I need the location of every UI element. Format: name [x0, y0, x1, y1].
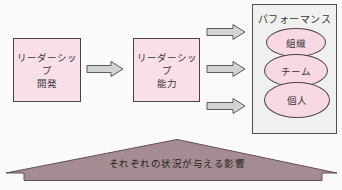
leadership-ability-label-line1: リーダーシップ: [134, 51, 199, 77]
arrow-ability-to-performance-bottom-icon: [207, 99, 245, 114]
leadership-ability-box: リーダーシップ 能力: [133, 38, 200, 102]
leadership-ability-label-line2: 能力: [157, 77, 177, 90]
arrow-development-to-ability-icon: [87, 62, 123, 77]
situation-banner-label: それぞれの状況が与える影響: [12, 156, 342, 170]
leadership-development-label-line2: 開発: [37, 77, 57, 90]
performance-level-organization: 組織: [266, 28, 326, 57]
leadership-development-label-line1: リーダーシップ: [14, 51, 80, 77]
performance-panel: パフォーマンス 組織 チーム 個人: [252, 4, 337, 134]
performance-level-individual: 個人: [264, 82, 330, 118]
leadership-development-box: リーダーシップ 開発: [13, 38, 81, 102]
leadership-performance-diagram: リーダーシップ 開発 リーダーシップ 能力 パフォーマンス 組織 チーム 個人 …: [0, 0, 342, 190]
performance-panel-title: パフォーマンス: [253, 11, 336, 26]
team-label: チーム: [281, 64, 311, 78]
arrow-ability-to-performance-middle-icon: [207, 62, 245, 77]
arrow-ability-to-performance-top-icon: [207, 25, 245, 40]
organization-label: 組織: [286, 36, 306, 50]
individual-label: 個人: [287, 93, 307, 107]
